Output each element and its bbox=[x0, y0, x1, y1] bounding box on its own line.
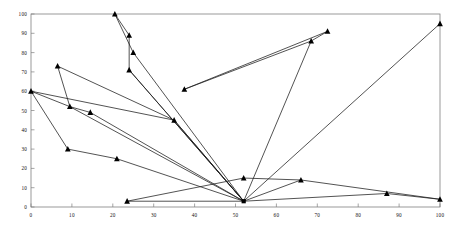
data-point-marker bbox=[325, 28, 331, 34]
y-tick-label: 100 bbox=[6, 11, 27, 17]
series-path-14 bbox=[244, 24, 440, 202]
data-point-marker bbox=[55, 63, 61, 69]
series-path-10 bbox=[184, 41, 311, 201]
x-tick-label: 0 bbox=[30, 212, 33, 218]
axis-ticks bbox=[31, 14, 440, 207]
data-point-marker bbox=[126, 32, 132, 38]
data-point-marker bbox=[384, 190, 390, 196]
x-tick-label: 80 bbox=[355, 212, 361, 218]
x-tick-label: 20 bbox=[110, 212, 116, 218]
y-tick-label: 0 bbox=[6, 204, 27, 210]
x-tick-label: 70 bbox=[315, 212, 321, 218]
series-path-12 bbox=[244, 193, 440, 201]
data-point-marker bbox=[437, 21, 443, 27]
hub-square-marker bbox=[242, 199, 246, 203]
chart-plot-area bbox=[0, 0, 455, 228]
series-path-7 bbox=[115, 14, 244, 201]
data-lines bbox=[31, 14, 440, 201]
data-point-marker bbox=[67, 104, 73, 110]
series-path-9 bbox=[127, 178, 301, 201]
data-point-marker bbox=[130, 50, 136, 56]
x-tick-label: 50 bbox=[233, 212, 239, 218]
y-tick-label: 20 bbox=[6, 165, 27, 171]
y-tick-label: 90 bbox=[6, 30, 27, 36]
x-tick-label: 100 bbox=[436, 212, 444, 218]
y-tick-label: 60 bbox=[6, 88, 27, 94]
y-tick-label: 80 bbox=[6, 50, 27, 56]
axis-frame bbox=[31, 14, 440, 207]
y-tick-label: 50 bbox=[6, 108, 27, 114]
x-tick-label: 10 bbox=[69, 212, 75, 218]
y-tick-label: 70 bbox=[6, 69, 27, 75]
y-tick-label: 10 bbox=[6, 185, 27, 191]
x-tick-label: 30 bbox=[151, 212, 157, 218]
data-point-marker bbox=[126, 67, 132, 73]
data-markers bbox=[28, 11, 443, 204]
chart-container: 0102030405060708090100 01020304050607080… bbox=[0, 0, 455, 228]
series-path-11 bbox=[184, 31, 327, 89]
data-point-marker bbox=[65, 146, 71, 152]
series-path-6 bbox=[115, 14, 244, 201]
x-tick-label: 90 bbox=[396, 212, 402, 218]
y-tick-label: 30 bbox=[6, 146, 27, 152]
y-tick-label: 40 bbox=[6, 127, 27, 133]
x-tick-label: 40 bbox=[192, 212, 198, 218]
series-path-15 bbox=[129, 70, 244, 201]
series-path-4 bbox=[58, 66, 244, 201]
data-point-marker bbox=[241, 175, 247, 181]
data-point-marker bbox=[182, 86, 188, 92]
series-path-13 bbox=[301, 180, 440, 199]
series-path-5 bbox=[58, 66, 244, 201]
x-tick-label: 60 bbox=[274, 212, 280, 218]
